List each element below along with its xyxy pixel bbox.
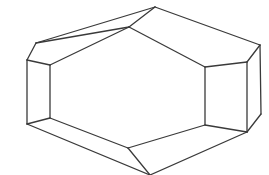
polyhedron-drawing — [0, 0, 269, 175]
polyhedron-diagram — [0, 0, 269, 175]
edge-inner_top-inner_right_top — [129, 27, 205, 67]
edge-bottom-left_bottom — [27, 124, 150, 175]
edge-inner_left_top-inner_top — [50, 27, 129, 65]
edge-right_top-right_bottom — [260, 45, 261, 114]
edge-top-right_top — [155, 7, 260, 45]
edge-left_top-upper_left — [27, 43, 36, 60]
edge-inner_right_bottom-inner_bottom — [128, 125, 205, 148]
edge-face_right_top-right_top — [247, 45, 260, 62]
edge-inner_right_top-face_right_top — [205, 62, 247, 67]
edge-face_right_bottom-bottom — [150, 132, 247, 175]
edge-inner_left_bottom-left_bottom — [27, 118, 50, 124]
edge-top-inner_top — [129, 7, 155, 27]
edge-upper_left-top — [36, 7, 155, 43]
edge-inner_right_bottom-face_right_bottom — [205, 125, 247, 132]
edge-inner_bottom-inner_left_bottom — [50, 118, 128, 148]
edge-inner_left_top-left_top — [27, 60, 50, 65]
edge-right_bottom-face_right_bottom — [247, 114, 261, 132]
